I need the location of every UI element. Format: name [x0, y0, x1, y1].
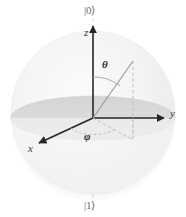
- ket-zero-label: |0⟩: [84, 5, 95, 16]
- phi-angle-label: φ: [84, 131, 90, 142]
- x-axis-label: x: [28, 143, 33, 154]
- y-axis-label: y: [170, 108, 175, 119]
- bloch-sphere-figure: |0⟩ |1⟩ z y x θ φ: [0, 0, 186, 217]
- ket-one-label: |1⟩: [84, 200, 95, 211]
- z-axis-label: z: [84, 27, 88, 38]
- theta-angle-label: θ: [102, 59, 108, 70]
- bloch-sphere-canvas: [0, 0, 186, 217]
- lower-hemisphere-veil: [11, 118, 175, 200]
